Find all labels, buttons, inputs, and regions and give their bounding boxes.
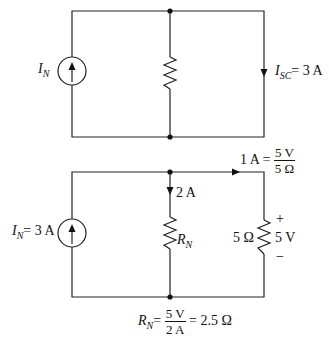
junction-dot xyxy=(167,169,172,174)
minus-sign: − xyxy=(276,250,284,264)
load-current-arrow-icon xyxy=(232,169,240,176)
top-resistor-icon xyxy=(164,57,176,89)
bottom-top-wire xyxy=(72,172,264,220)
isc-value: = 3 A xyxy=(291,63,322,78)
isc-label-main: I xyxy=(275,63,280,78)
top-circuit-wires xyxy=(72,11,264,137)
rn-label-sub: N xyxy=(186,239,193,250)
bottom-bottom-wire xyxy=(72,247,264,297)
equals-sign: = xyxy=(153,313,161,328)
top-circuit xyxy=(58,11,264,137)
bottom-source-arrowhead-icon xyxy=(69,224,76,232)
branch-current-arrow-icon xyxy=(167,187,174,195)
source-label-main: I xyxy=(12,223,17,238)
top-source-label: IN xyxy=(38,62,49,76)
fraction-denominator: 5 Ω xyxy=(275,161,294,175)
equation-lhs-sub: N xyxy=(147,320,154,331)
fraction-numerator: 5 V xyxy=(165,307,186,322)
source-value: = 3 A xyxy=(23,223,54,238)
load-resistor-icon xyxy=(258,220,270,254)
rn-resistor-icon xyxy=(164,217,176,249)
rn-fraction: 5 V 2 A xyxy=(165,307,186,336)
rn-label: RN xyxy=(177,233,192,247)
isc-label: ISC= 3 A xyxy=(275,64,323,78)
isc-arrow-icon xyxy=(261,69,268,77)
equation-result: = 2.5 Ω xyxy=(189,313,232,328)
bottom-source-label: IN= 3 A xyxy=(12,224,55,238)
fraction-numerator: 5 V xyxy=(274,146,295,161)
plus-sign: + xyxy=(276,212,284,226)
load-current-lhs: 1 A = xyxy=(240,152,270,167)
isc-label-sub: SC xyxy=(280,70,292,81)
equation-lhs-main: R xyxy=(138,313,147,328)
load-current-fraction: 5 V 5 Ω xyxy=(274,146,295,175)
source-label-sub: N xyxy=(43,68,50,79)
load-current-equation: 1 A = 5 V 5 Ω xyxy=(240,146,295,175)
load-voltage-label: 5 V xyxy=(275,231,295,245)
source-label-sub: N xyxy=(17,230,24,241)
load-resistance-label: 5 Ω xyxy=(233,231,254,245)
top-source-arrowhead-icon xyxy=(69,62,76,70)
source-label-main: I xyxy=(38,61,43,76)
junction-dot xyxy=(167,134,172,139)
fraction-denominator: 2 A xyxy=(166,322,184,336)
junction-dot xyxy=(167,8,172,13)
branch-current-label: 2 A xyxy=(176,186,196,200)
junction-dot xyxy=(167,294,172,299)
rn-label-main: R xyxy=(177,232,186,247)
rn-equation: RN= 5 V 2 A = 2.5 Ω xyxy=(138,307,232,336)
